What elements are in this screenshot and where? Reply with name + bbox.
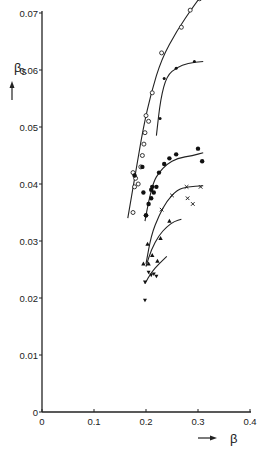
data-point [144,114,148,118]
fit-curve [156,62,203,136]
data-point [147,119,151,123]
y-tick-label: 0 [33,407,38,418]
axes: 00.010.020.030.040.050.060.0700.10.20.30… [20,8,257,428]
x-tick-label: 0.2 [139,416,152,427]
data-point [200,159,204,163]
data-point [162,162,166,166]
data-point [188,8,192,12]
data-points [131,0,204,302]
data-point [174,152,178,156]
data-point [143,131,147,135]
data-point [167,219,171,223]
data-point [149,196,153,200]
data-point [133,185,137,189]
chart: 00.010.020.030.040.050.060.0700.10.20.30… [0,0,269,462]
data-point [159,117,162,120]
data-point [141,262,145,266]
y-tick-label: 0.03 [20,236,39,247]
data-point [142,142,146,146]
data-point [193,60,196,63]
data-point [191,202,195,206]
data-point [143,299,147,303]
fit-curve [146,186,203,264]
data-point [157,170,161,174]
data-point [163,77,166,80]
y-axis-arrow-icon [10,81,15,100]
y-axis-label-subscript: s [21,66,26,77]
data-point [144,213,148,217]
x-axis-label: β [230,431,237,446]
data-point [136,182,140,186]
y-tick-label: 0.01 [20,350,39,361]
x-tick-label: 0.1 [87,416,100,427]
x-tick-label: 0.3 [191,416,204,427]
data-point [186,196,190,200]
x-tick-label: 0 [39,416,44,427]
y-tick-label: 0.05 [20,122,39,133]
data-point [152,190,156,194]
data-point [160,51,164,55]
x-tick-label: 0.4 [243,416,256,427]
data-point [167,156,171,160]
data-point [140,165,144,169]
y-axis-label: βs [14,60,26,77]
data-point [154,275,158,279]
data-point [175,67,178,70]
data-point [170,194,174,198]
data-point [196,146,200,150]
data-point [150,253,154,257]
data-point [155,259,159,263]
fit-curves [128,0,203,284]
y-tick-label: 0.04 [20,179,39,190]
data-point [179,25,183,29]
data-point [154,185,158,189]
y-tick-label: 0.02 [20,293,39,304]
data-point [146,202,150,206]
data-point [140,154,144,158]
y-tick-label: 0.07 [20,8,39,19]
data-point [150,91,154,95]
data-point [150,185,154,189]
data-point [145,242,149,246]
data-point [131,211,135,215]
data-point [141,190,145,194]
x-axis-arrow-icon [198,436,217,441]
data-point [198,0,202,1]
data-point [132,173,136,177]
